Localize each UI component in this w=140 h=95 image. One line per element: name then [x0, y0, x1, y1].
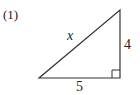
- right-triangle-diagram: [0, 0, 140, 95]
- horizontal-leg-label: 5: [76, 80, 83, 94]
- right-angle-mark: [112, 70, 120, 78]
- triangle: [39, 10, 120, 78]
- hypotenuse-label: x: [67, 29, 73, 43]
- vertical-leg-label: 4: [124, 38, 131, 52]
